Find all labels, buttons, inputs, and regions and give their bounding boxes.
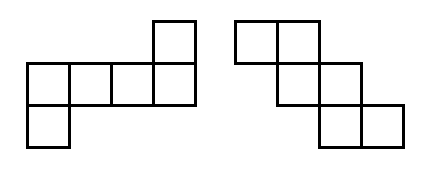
net-right-square (360, 104, 405, 149)
net-right-square (318, 62, 363, 107)
net-left-square (152, 62, 197, 107)
net-right-square (318, 104, 363, 149)
diagram-canvas (0, 0, 434, 171)
net-left-square (110, 62, 155, 107)
net-right-square (234, 20, 279, 65)
net-right-square (276, 20, 321, 65)
net-left-square (152, 20, 197, 65)
net-left-square (26, 104, 71, 149)
net-left-square (68, 62, 113, 107)
net-left-square (26, 62, 71, 107)
net-right-square (276, 62, 321, 107)
